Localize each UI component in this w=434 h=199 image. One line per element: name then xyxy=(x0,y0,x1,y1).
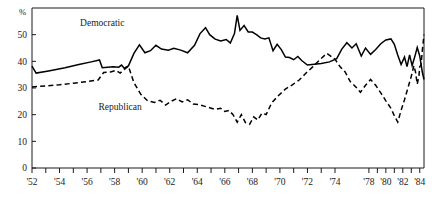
x-tick-label: '56 xyxy=(81,177,92,187)
series-annotations: DemocraticRepublican xyxy=(80,18,142,112)
x-tick-label: '54 xyxy=(54,177,65,187)
series-label-democratic: Democratic xyxy=(80,18,124,28)
x-tick-label: '62 xyxy=(164,177,175,187)
x-tick-label: '60 xyxy=(137,177,148,187)
x-tick-label: '66 xyxy=(219,177,230,187)
x-tick-label: '52 xyxy=(26,177,37,187)
plot-frame xyxy=(32,8,424,168)
y-tick-label: 50 xyxy=(18,30,28,40)
series-lines xyxy=(32,15,424,124)
x-tick-label: '74 xyxy=(329,177,340,187)
poll-line-chart: 01020304050% '52'54'56'58'60'62'64'66'68… xyxy=(0,0,434,199)
x-axis-labels: '52'54'56'58'60'62'64'66'68'70'72'74'78'… xyxy=(26,177,425,187)
y-tick-label: 10 xyxy=(18,137,28,147)
x-tick-label: '78 xyxy=(363,177,374,187)
x-tick-label: '68 xyxy=(247,177,258,187)
y-tick-label: 40 xyxy=(18,57,28,67)
x-tick-label: '70 xyxy=(274,177,285,187)
x-tick-label: '64 xyxy=(192,177,203,187)
x-axis-ticks xyxy=(32,168,420,173)
y-axis-unit-label: % xyxy=(19,7,26,17)
y-tick-label: 30 xyxy=(18,83,28,93)
y-axis-labels: 01020304050% xyxy=(18,7,28,173)
series-label-republican: Republican xyxy=(99,102,143,112)
chart-canvas: 01020304050% '52'54'56'58'60'62'64'66'68… xyxy=(0,0,434,199)
y-tick-label: 0 xyxy=(22,163,27,173)
y-tick-label: 20 xyxy=(18,110,28,120)
x-tick-label: '82 xyxy=(397,177,408,187)
x-tick-label: '84 xyxy=(414,177,425,187)
y-axis-ticks xyxy=(32,35,36,168)
x-tick-label: '72 xyxy=(302,177,313,187)
x-tick-label: '58 xyxy=(109,177,120,187)
x-tick-label: '80 xyxy=(380,177,391,187)
